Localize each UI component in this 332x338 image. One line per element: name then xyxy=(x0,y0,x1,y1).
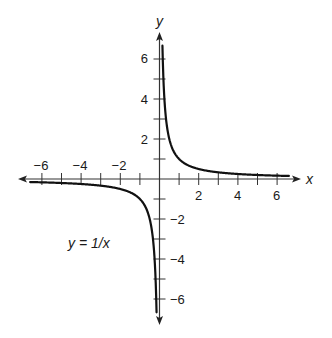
x-tick-label: −2 xyxy=(112,158,127,173)
x-axis-label: x xyxy=(305,171,314,187)
curve-positive-branch xyxy=(162,46,288,176)
equation-text: y = 1/x xyxy=(67,235,111,251)
reciprocal-function-graph: −6 −4 −2 2 4 6 6 4 2 −2 −4 −6 x y y = 1/… xyxy=(0,0,332,338)
y-tick-label: −4 xyxy=(170,252,185,267)
y-tick-label: 2 xyxy=(141,132,148,147)
x-tick-label: −6 xyxy=(34,158,49,173)
y-tick-label: −2 xyxy=(170,212,185,227)
x-tick-label: 4 xyxy=(234,188,241,203)
y-axis-label: y xyxy=(155,13,164,29)
equation-label: y = 1/x xyxy=(67,235,111,251)
y-tick-label: 6 xyxy=(141,51,148,66)
y-tick-label: −6 xyxy=(170,292,185,307)
y-tick-label: 4 xyxy=(141,92,148,107)
x-tick-labels: −6 −4 −2 2 4 6 xyxy=(34,158,281,203)
x-tick-label: −4 xyxy=(73,158,88,173)
x-tick-label: 6 xyxy=(273,188,280,203)
x-tick-label: 2 xyxy=(195,188,202,203)
